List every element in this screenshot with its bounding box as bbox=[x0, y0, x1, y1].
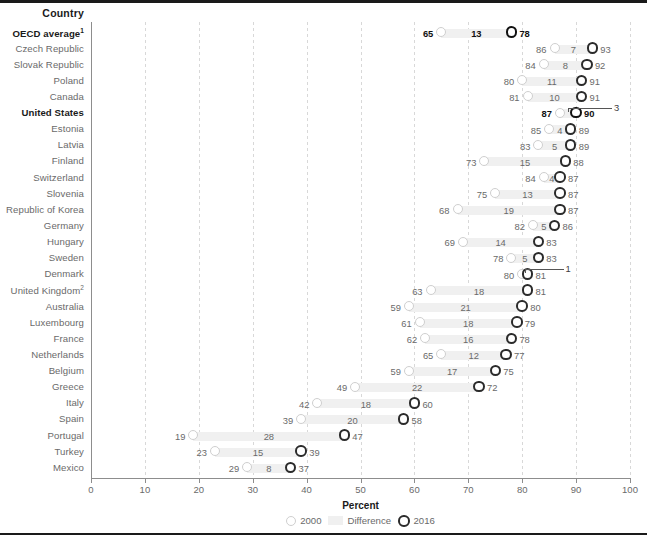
value-2000: 82 bbox=[515, 221, 525, 232]
value-2000: 59 bbox=[391, 302, 401, 313]
value-difference: 18 bbox=[361, 399, 371, 410]
value-difference: 15 bbox=[520, 157, 530, 168]
chart-row: 751387 bbox=[0, 186, 647, 202]
value-2016: 87 bbox=[568, 189, 578, 200]
marker-2016[interactable] bbox=[565, 123, 577, 135]
marker-2016[interactable] bbox=[533, 252, 545, 264]
chart-row: 611879 bbox=[0, 315, 647, 331]
value-2016: 77 bbox=[514, 350, 524, 361]
value-2000: 83 bbox=[520, 141, 530, 152]
marker-2000[interactable] bbox=[426, 285, 436, 295]
marker-2016[interactable] bbox=[549, 220, 561, 232]
marker-2016[interactable] bbox=[506, 26, 518, 38]
marker-2000[interactable] bbox=[458, 237, 468, 247]
marker-2016[interactable] bbox=[587, 42, 599, 54]
marker-2016[interactable] bbox=[500, 349, 512, 361]
value-difference: 13 bbox=[522, 189, 532, 200]
value-difference: 8 bbox=[563, 60, 568, 71]
x-tick-label: 0 bbox=[76, 484, 106, 495]
marker-2016[interactable] bbox=[398, 413, 410, 425]
x-tick bbox=[630, 478, 631, 483]
marker-2000[interactable] bbox=[539, 172, 549, 182]
x-tick bbox=[522, 478, 523, 483]
x-tick-label: 50 bbox=[346, 484, 376, 495]
marker-2016[interactable] bbox=[522, 284, 534, 296]
x-tick bbox=[414, 478, 415, 483]
x-tick-label: 90 bbox=[561, 484, 591, 495]
chart-row: 192847 bbox=[0, 428, 647, 444]
x-tick bbox=[468, 478, 469, 483]
value-2016: 88 bbox=[573, 157, 583, 168]
marker-2016[interactable] bbox=[295, 445, 307, 457]
value-difference: 15 bbox=[253, 447, 263, 458]
value-2000: 23 bbox=[197, 447, 207, 458]
marker-2016[interactable] bbox=[506, 333, 518, 345]
value-2000: 69 bbox=[444, 237, 454, 248]
marker-2016[interactable] bbox=[533, 236, 545, 248]
value-2016: 83 bbox=[546, 237, 556, 248]
callout-line bbox=[568, 108, 612, 109]
marker-2000[interactable] bbox=[539, 59, 549, 69]
value-difference: 7 bbox=[571, 44, 576, 55]
chart-row: 82586 bbox=[0, 218, 647, 234]
chart-row: 84892 bbox=[0, 57, 647, 73]
marker-2016[interactable] bbox=[581, 59, 593, 71]
bottom-divider bbox=[0, 533, 647, 535]
marker-2016[interactable] bbox=[554, 204, 566, 216]
marker-2016[interactable] bbox=[511, 316, 523, 328]
marker-2016[interactable] bbox=[516, 300, 528, 312]
value-2000: 84 bbox=[525, 173, 535, 184]
marker-2016[interactable] bbox=[522, 268, 534, 280]
value-difference: 18 bbox=[474, 286, 484, 297]
chart-row: 811091 bbox=[0, 89, 647, 105]
value-2016: 58 bbox=[412, 415, 422, 426]
marker-2016[interactable] bbox=[490, 365, 502, 377]
value-2000: 87 bbox=[541, 108, 551, 119]
marker-2000[interactable] bbox=[550, 43, 560, 53]
marker-2016[interactable] bbox=[554, 171, 566, 183]
value-2016: 75 bbox=[503, 366, 513, 377]
marker-2000[interactable] bbox=[555, 108, 565, 118]
value-difference: 12 bbox=[468, 350, 478, 361]
value-difference: 8 bbox=[266, 463, 271, 474]
band-swatch-icon bbox=[328, 516, 343, 525]
value-2016: 39 bbox=[309, 447, 319, 458]
value-2000: 61 bbox=[401, 318, 411, 329]
value-2016: 78 bbox=[519, 334, 529, 345]
marker-2016[interactable] bbox=[576, 91, 588, 103]
marker-2016[interactable] bbox=[570, 107, 582, 119]
marker-2000[interactable] bbox=[404, 301, 414, 311]
marker-2000[interactable] bbox=[544, 124, 554, 134]
marker-2016[interactable] bbox=[565, 139, 577, 151]
chart-legend: 2000 Difference 2016 bbox=[91, 515, 630, 527]
marker-2016[interactable] bbox=[576, 75, 588, 87]
value-2000: 78 bbox=[493, 253, 503, 264]
value-2016: 81 bbox=[536, 270, 546, 281]
chart-row: 29837 bbox=[0, 460, 647, 476]
marker-2000[interactable] bbox=[350, 382, 360, 392]
marker-2016[interactable] bbox=[409, 397, 421, 409]
marker-2016[interactable] bbox=[339, 429, 351, 441]
marker-2000[interactable] bbox=[415, 317, 425, 327]
marker-2016[interactable] bbox=[554, 187, 566, 199]
marker-2016[interactable] bbox=[473, 381, 485, 393]
marker-2000[interactable] bbox=[404, 366, 414, 376]
marker-2000[interactable] bbox=[453, 204, 463, 214]
value-2016: 47 bbox=[352, 431, 362, 442]
legend-item-difference: Difference bbox=[328, 515, 391, 526]
value-difference: 5 bbox=[541, 221, 546, 232]
marker-2016[interactable] bbox=[560, 155, 572, 167]
marker-2016[interactable] bbox=[285, 462, 297, 474]
value-2000: 84 bbox=[525, 60, 535, 71]
value-2016: 79 bbox=[525, 318, 535, 329]
value-difference: 21 bbox=[460, 302, 470, 313]
chart-row: 591775 bbox=[0, 363, 647, 379]
value-2016: 90 bbox=[584, 108, 594, 119]
chart-row: 392058 bbox=[0, 411, 647, 427]
x-tick bbox=[199, 478, 200, 483]
x-tick bbox=[145, 478, 146, 483]
value-difference: 5 bbox=[552, 141, 557, 152]
circle-outline-light-icon bbox=[286, 516, 296, 526]
value-difference: 22 bbox=[412, 382, 422, 393]
value-2016: 83 bbox=[546, 253, 556, 264]
